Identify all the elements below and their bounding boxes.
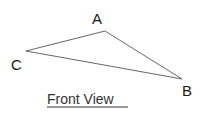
vertex-label-b: B — [182, 82, 192, 99]
vertex-label-a: A — [92, 10, 102, 27]
vertex-label-c: C — [11, 56, 22, 73]
front-view-diagram: A B C Front View — [0, 0, 200, 113]
caption-front-view: Front View — [47, 91, 115, 107]
triangle-abc — [26, 31, 182, 79]
